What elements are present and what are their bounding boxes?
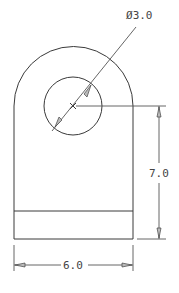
height-arrow-top <box>157 107 161 117</box>
height-dimension: 7.0 <box>76 106 169 239</box>
diameter-dimension: Ø3.0 <box>52 9 153 131</box>
width-arrow-left <box>15 263 25 267</box>
diameter-leader-line <box>52 27 136 131</box>
technical-drawing: Ø3.0 7.0 6.0 <box>0 0 179 293</box>
outer-profile <box>14 47 133 240</box>
diameter-arrow-lower <box>55 117 62 127</box>
width-arrow-right <box>122 263 132 267</box>
height-label: 7.0 <box>149 167 169 180</box>
diameter-label: Ø3.0 <box>126 9 153 22</box>
width-dimension: 6.0 <box>14 245 133 272</box>
part-outline <box>14 47 133 240</box>
height-arrow-bottom <box>157 228 161 238</box>
width-label: 6.0 <box>63 259 83 272</box>
